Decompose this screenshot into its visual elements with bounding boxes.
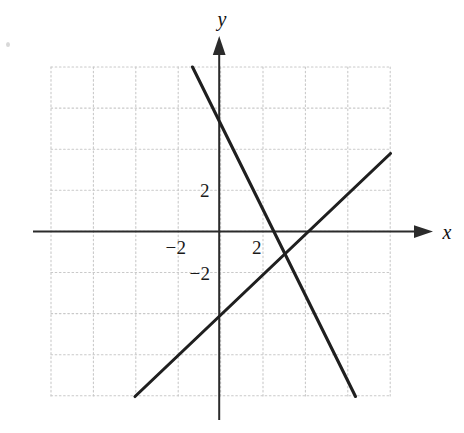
- axes-group: [33, 41, 418, 420]
- x-axis-label: x: [443, 222, 452, 242]
- y-axis-label: y: [218, 9, 227, 29]
- graph-canvas: [0, 0, 464, 433]
- y-axis-arrowhead: [213, 36, 226, 55]
- y-tick-label-2: 2: [200, 181, 210, 200]
- x-tick-label-minus2: −2: [165, 238, 186, 257]
- y-tick-label-minus2: −2: [189, 264, 210, 283]
- coordinate-plane-figure: −2 2 2 −2 y x: [0, 0, 464, 433]
- x-axis-arrowhead: [414, 225, 433, 238]
- x-tick-label-2: 2: [252, 238, 262, 257]
